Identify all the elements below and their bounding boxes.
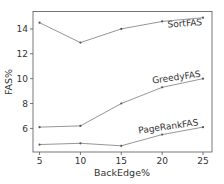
- x-tick-label: 10: [75, 156, 87, 166]
- data-point-marker: [161, 86, 163, 88]
- data-point-marker: [161, 20, 163, 22]
- y-tick-label: 6: [22, 124, 28, 134]
- chart-canvas: SortFASGreedyFASPageRankFAS 510152025 68…: [0, 0, 224, 184]
- y-tick-label: 8: [22, 99, 28, 109]
- data-point-marker: [38, 126, 40, 128]
- y-tick-label: 10: [17, 74, 29, 84]
- x-tick-label: 25: [197, 156, 208, 166]
- y-tick-label: 14: [17, 24, 29, 34]
- x-tick-label: 20: [156, 156, 168, 166]
- data-point-marker: [120, 145, 122, 147]
- data-point-marker: [79, 142, 81, 144]
- data-point-marker: [38, 22, 40, 24]
- data-point-marker: [120, 28, 122, 30]
- data-point-marker: [202, 17, 204, 19]
- data-point-marker: [79, 125, 81, 127]
- series-label: SortFAS: [167, 17, 203, 29]
- data-point-marker: [202, 78, 204, 80]
- series-label: GreedyFAS: [152, 69, 202, 86]
- x-tick-label: 15: [116, 156, 127, 166]
- x-axis-label: BackEdge%: [94, 167, 150, 178]
- plot-area: SortFASGreedyFASPageRankFAS: [38, 17, 204, 147]
- data-point-marker: [161, 133, 163, 135]
- x-tick-label: 5: [37, 156, 43, 166]
- x-axis-ticks: 510152025: [37, 152, 209, 166]
- y-tick-label: 12: [17, 49, 28, 59]
- series-pagerankfas: PageRankFAS: [38, 117, 204, 147]
- line-chart: SortFASGreedyFASPageRankFAS 510152025 68…: [0, 0, 224, 184]
- series-label: PageRankFAS: [138, 117, 200, 135]
- y-axis-label: FAS%: [3, 69, 14, 95]
- data-point-marker: [38, 143, 40, 145]
- data-point-marker: [79, 41, 81, 43]
- series-sortfas: SortFAS: [38, 17, 204, 44]
- y-axis-ticks: 68101214: [17, 24, 33, 133]
- data-point-marker: [202, 126, 204, 128]
- data-point-marker: [120, 102, 122, 104]
